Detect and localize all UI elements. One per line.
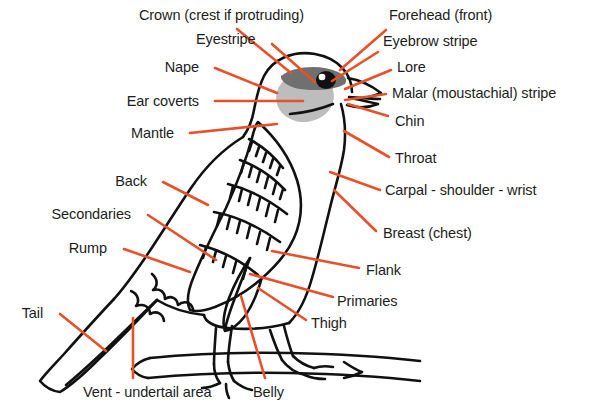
feather-row-4-barbs (217, 214, 270, 250)
rump-scallops (131, 291, 164, 321)
label-carpal: Carpal - shoulder - wrist (385, 183, 536, 198)
label-tail: Tail (22, 306, 43, 321)
label-forehead: Forehead (front) (389, 8, 492, 23)
label-ear-coverts: Ear coverts (127, 94, 199, 109)
leg-far-tarsus (293, 356, 314, 368)
branch-left-stub (132, 358, 150, 378)
label-chin: Chin (395, 114, 424, 129)
leader-line-primaries (250, 274, 333, 297)
label-belly: Belly (253, 385, 284, 400)
tail-inner-edge (66, 300, 157, 385)
label-throat: Throat (395, 151, 436, 166)
leg-near-upper (228, 326, 232, 362)
bird-outline-group (40, 53, 420, 398)
leader-line-thigh (258, 288, 306, 320)
throat-breast-outline (289, 104, 345, 323)
leader-line-breast (334, 190, 376, 231)
label-crown: Crown (crest if protruding) (139, 8, 304, 23)
label-primaries: Primaries (337, 294, 397, 309)
label-breast: Breast (chest) (383, 226, 472, 241)
label-malar: Malar (moustachial) stripe (392, 86, 556, 101)
leg-near-lower (214, 328, 216, 364)
leg-far-lower (270, 330, 282, 360)
branch-bottom-edge (148, 373, 420, 381)
vent-feather-scallops (152, 274, 193, 309)
leader-line-back (163, 182, 208, 205)
label-secondaries: Secondaries (51, 207, 131, 222)
label-flank: Flank (366, 263, 401, 278)
bird-anatomy-diagram: Crown (crest if protruding)Forehead (fro… (0, 0, 599, 416)
label-mantle: Mantle (131, 126, 174, 141)
eye-highlight (319, 74, 326, 80)
leg-near-tarsus-2 (228, 362, 234, 381)
back-rump-outline (114, 137, 243, 299)
label-thigh: Thigh (311, 316, 347, 331)
leg-far-upper (284, 326, 293, 356)
leader-line-forehead (340, 30, 386, 70)
label-rump: Rump (69, 241, 107, 256)
leader-line-belly (241, 296, 265, 378)
label-eyestripe: Eyestripe (196, 32, 256, 47)
label-back: Back (115, 174, 147, 189)
label-vent: Vent - undertail area (83, 385, 212, 400)
label-eyebrow: Eyebrow stripe (383, 34, 478, 49)
leader-line-rump (124, 249, 190, 272)
leader-line-tail (60, 314, 106, 351)
label-nape: Nape (165, 60, 199, 75)
leader-line-throat (344, 131, 389, 157)
branch-top-edge (150, 353, 420, 361)
label-lore: Lore (397, 60, 426, 75)
wing-primaries (224, 258, 262, 331)
